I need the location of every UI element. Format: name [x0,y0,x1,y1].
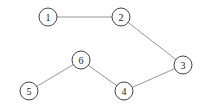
edge-2-3 [121,17,183,65]
node-2: 2 [112,8,130,26]
node-1: 1 [39,8,57,26]
node-label: 1 [46,12,51,23]
node-3: 3 [174,56,192,74]
node-6: 6 [72,51,90,69]
edges-group [29,17,183,91]
node-4: 4 [115,82,133,100]
node-label: 3 [181,60,186,71]
node-label: 2 [119,12,124,23]
node-label: 5 [27,86,32,97]
node-5: 5 [20,82,38,100]
nodes-group: 123456 [20,8,192,100]
node-label: 4 [122,86,127,97]
node-label: 6 [79,55,84,66]
edge-3-4 [124,65,183,91]
graph-diagram: 123456 [0,0,208,111]
